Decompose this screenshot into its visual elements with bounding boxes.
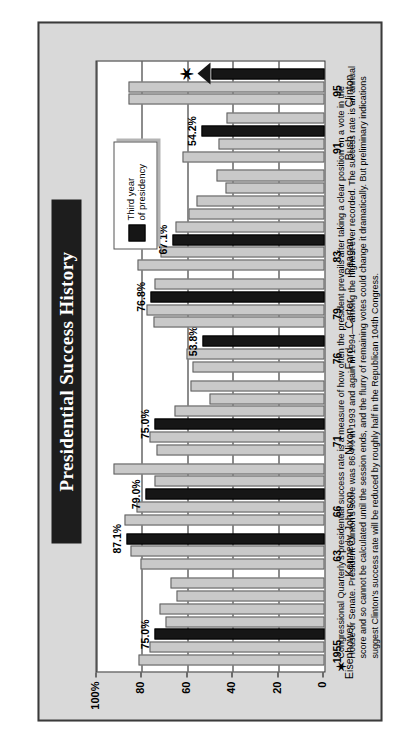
bar-value-label: 79.0% xyxy=(129,479,141,509)
value-axis-label: 80 xyxy=(133,681,145,719)
bar-year xyxy=(154,475,324,486)
bar-third-year xyxy=(126,533,324,544)
bar-year xyxy=(196,195,324,206)
category-label: 91Bush xyxy=(330,117,354,179)
value-axis-label: 40 xyxy=(224,681,236,719)
category-year: 1955 xyxy=(330,620,342,682)
bar-in-progress xyxy=(211,68,325,79)
bar-year xyxy=(176,590,324,601)
bar-year xyxy=(154,278,324,289)
legend-swatch-third-year xyxy=(128,224,145,241)
bar-year xyxy=(146,304,324,315)
category-label: 71Nixon xyxy=(330,410,354,472)
category-year: 91 xyxy=(330,117,342,179)
page-title: Presidential Success History xyxy=(55,251,77,491)
bar-year xyxy=(209,393,324,404)
bar-value-label: 53.8% xyxy=(186,326,198,356)
bar-year xyxy=(124,514,324,525)
value-axis-label: 0 xyxy=(315,681,327,719)
bar-year xyxy=(170,577,324,588)
bar-year xyxy=(140,558,324,569)
category-name: Bush xyxy=(342,117,354,179)
axis-tick xyxy=(140,672,141,677)
category-year: 71 xyxy=(330,410,342,472)
bar-year xyxy=(136,501,324,512)
category-label: 79Carter xyxy=(330,282,354,344)
bar-third-year xyxy=(172,234,324,245)
bar-value-label: 54.2% xyxy=(185,116,197,146)
bar-year xyxy=(192,361,324,372)
axis-tick xyxy=(322,672,323,677)
bar-year xyxy=(128,81,324,92)
category-label: 66Johnson xyxy=(330,480,354,542)
bar-year xyxy=(128,93,324,104)
arrow-head-icon xyxy=(197,62,210,84)
category-name: Eisenhower xyxy=(342,620,354,682)
category-name: Nixon xyxy=(342,410,354,472)
bar-third-year xyxy=(145,488,324,499)
category-name: Carter xyxy=(342,282,354,344)
bar-year xyxy=(159,603,324,614)
value-axis-label: 60 xyxy=(179,681,191,719)
axis-tick xyxy=(277,672,278,677)
bar-year xyxy=(138,654,324,665)
category-label: 1955Eisenhower xyxy=(330,620,354,682)
bar-year xyxy=(226,112,324,123)
bar-year xyxy=(182,151,324,162)
bar-value-label: 76.8% xyxy=(134,281,146,311)
axis-tick xyxy=(95,672,96,677)
bar-year xyxy=(225,182,324,193)
bar-year xyxy=(216,170,324,181)
bar-year xyxy=(153,316,324,327)
category-year: 66 xyxy=(330,480,342,542)
category-year: 95 xyxy=(330,59,342,121)
bar-third-year xyxy=(202,335,324,346)
bar-year xyxy=(190,380,324,391)
bar-year xyxy=(113,463,324,474)
category-name: Johnson xyxy=(342,480,354,542)
bar-third-year xyxy=(150,291,324,302)
chart-title-plate: Presidential Success History xyxy=(51,199,81,543)
bar-year xyxy=(218,138,324,149)
category-name: Reagan xyxy=(342,225,354,287)
bar-year xyxy=(186,348,324,359)
bar-value-label: 87.1% xyxy=(110,523,122,553)
chart-figure: Presidential Success History 75.0%87.1%7… xyxy=(37,21,382,721)
bar-year xyxy=(137,259,324,270)
rotated-figure-wrapper: Presidential Success History 75.0%87.1%7… xyxy=(37,21,382,721)
bar-year xyxy=(160,246,324,257)
bar-third-year xyxy=(201,125,324,136)
legend-label-line2: of presidency xyxy=(135,163,146,220)
bar-year xyxy=(130,545,324,556)
bar-value-label: 75.0% xyxy=(138,409,150,439)
category-name: Clinton xyxy=(342,59,354,121)
bar-year xyxy=(175,221,324,232)
bar-year xyxy=(174,405,324,416)
axis-tick xyxy=(231,672,232,677)
axis-tick xyxy=(186,672,187,677)
value-axis-label: 100% xyxy=(88,681,100,719)
asterisk-marker-icon: ✶ xyxy=(178,66,195,80)
bar-year xyxy=(165,616,324,627)
page-root: Presidential Success History 75.0%87.1%7… xyxy=(0,0,419,742)
gridline xyxy=(96,61,97,671)
legend-label-line1: Third year xyxy=(124,177,135,220)
bar-year xyxy=(188,208,324,219)
category-label: 83Reagan xyxy=(330,225,354,287)
bar-year xyxy=(156,444,324,455)
category-label: 95Clinton xyxy=(330,59,354,121)
category-year: 83 xyxy=(330,225,342,287)
bar-value-label: 75.0% xyxy=(138,619,150,649)
category-year: 79 xyxy=(330,282,342,344)
bar-year xyxy=(149,641,324,652)
legend-label: Third year of presidency xyxy=(124,163,146,220)
bar-year xyxy=(149,431,324,442)
bar-third-year xyxy=(154,418,324,429)
bar-third-year xyxy=(154,628,324,639)
chart-legend: Third year of presidency xyxy=(113,141,157,249)
value-axis-label: 20 xyxy=(270,681,282,719)
